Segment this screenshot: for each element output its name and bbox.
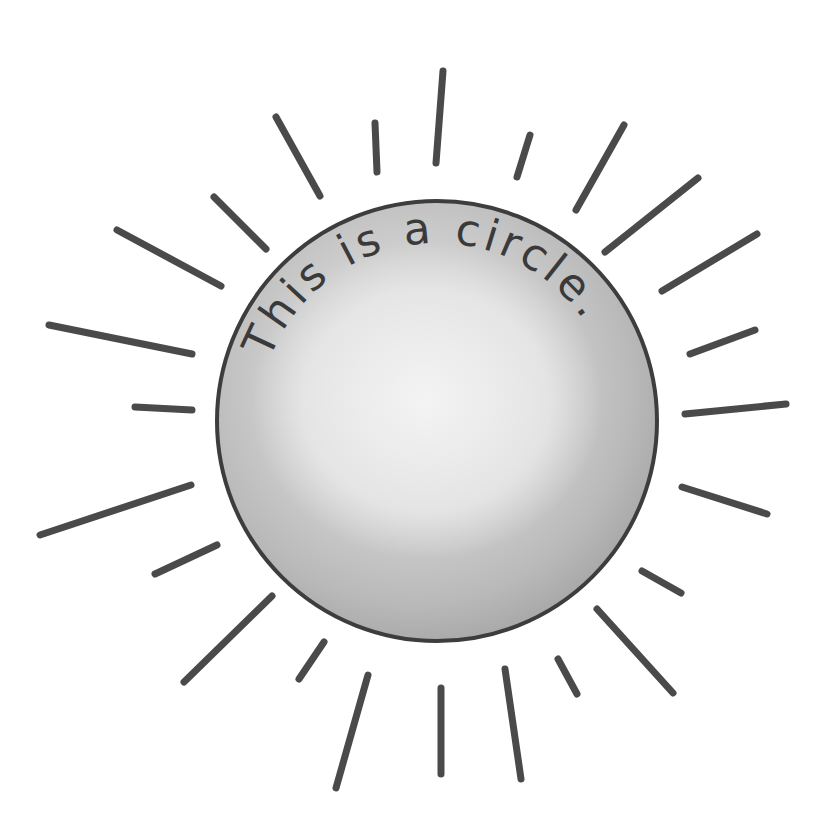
sun-drawing: This is a circle. <box>0 0 816 827</box>
sun-ray <box>40 485 191 535</box>
sun-ray <box>155 545 217 574</box>
sun-ray <box>597 609 673 693</box>
sun-ray <box>49 325 192 354</box>
sun-ray <box>605 178 698 252</box>
sun-ray <box>214 197 266 249</box>
sun-illustration: This is a circle. <box>0 0 816 827</box>
sun-ray <box>184 596 272 682</box>
sun-ray <box>436 71 443 163</box>
sun-ray <box>682 487 767 514</box>
sun-ray <box>276 117 320 196</box>
sun-ray <box>662 234 757 291</box>
sun-ray <box>690 330 755 354</box>
sun-ray <box>558 659 577 694</box>
sun-ray <box>517 135 530 177</box>
sun-ray <box>135 407 192 410</box>
sun-ray <box>642 571 681 593</box>
sun-ray <box>299 642 324 679</box>
sun-ray <box>505 669 521 779</box>
sun-ray <box>375 123 377 172</box>
sun-ray <box>576 125 624 210</box>
sun-ray <box>336 675 368 788</box>
sun-ray <box>117 230 221 286</box>
sun-ray <box>685 404 786 414</box>
